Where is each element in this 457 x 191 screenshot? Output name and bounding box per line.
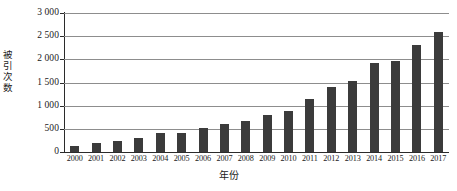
x-tick-label: 2008	[235, 154, 256, 164]
x-tick-label: 2004	[150, 154, 171, 164]
bar-slot[interactable]	[64, 13, 85, 152]
bar-chart-figure: 被引次数 05001 0001 5002 0002 5003 000 20002…	[0, 0, 457, 191]
bar-slot[interactable]	[363, 13, 384, 152]
x-tick-label: 2012	[321, 154, 342, 164]
x-tick-label: 2014	[363, 154, 384, 164]
x-tick-label: 2016	[406, 154, 427, 164]
y-tick-label: 3 000	[3, 8, 59, 18]
x-tick-label: 2009	[257, 154, 278, 164]
bar[interactable]	[284, 111, 293, 152]
bar-slot[interactable]	[192, 13, 213, 152]
bar[interactable]	[177, 133, 186, 152]
x-tick-label: 2000	[64, 154, 85, 164]
x-tick-label: 2005	[171, 154, 192, 164]
y-tick-label: 2 500	[3, 31, 59, 41]
bar[interactable]	[348, 81, 357, 152]
bar-slot[interactable]	[278, 13, 299, 152]
y-tick-mark	[60, 152, 64, 153]
y-tick-label: 2 000	[3, 55, 59, 65]
y-tick-mark	[60, 36, 64, 37]
bar[interactable]	[327, 87, 336, 152]
bar-slot[interactable]	[128, 13, 149, 152]
bar-slot[interactable]	[150, 13, 171, 152]
bar[interactable]	[241, 121, 250, 152]
bar[interactable]	[156, 133, 165, 152]
bar[interactable]	[92, 143, 101, 152]
y-tick-mark	[60, 106, 64, 107]
y-tick-mark	[60, 59, 64, 60]
bar-slot[interactable]	[342, 13, 363, 152]
bar[interactable]	[263, 115, 272, 152]
x-tick-label: 2002	[107, 154, 128, 164]
bar-slot[interactable]	[385, 13, 406, 152]
bar[interactable]	[113, 141, 122, 152]
bar-slot[interactable]	[107, 13, 128, 152]
bar-slot[interactable]	[299, 13, 320, 152]
bar-slot[interactable]	[85, 13, 106, 152]
bar[interactable]	[134, 138, 143, 152]
gridline	[64, 152, 449, 153]
x-tick-label: 2010	[278, 154, 299, 164]
bar[interactable]	[370, 63, 379, 152]
x-tick-label: 2011	[299, 154, 320, 164]
bar[interactable]	[434, 32, 443, 152]
x-tick-label: 2006	[192, 154, 213, 164]
x-tick-label: 2017	[428, 154, 449, 164]
x-tick-label: 2013	[342, 154, 363, 164]
y-axis-tick-labels: 05001 0001 5002 0002 5003 000	[0, 0, 59, 191]
y-tick-mark	[60, 129, 64, 130]
y-tick-label: 1 500	[3, 78, 59, 88]
bar[interactable]	[305, 99, 314, 153]
bar[interactable]	[391, 61, 400, 152]
y-tick-label: 500	[3, 124, 59, 134]
y-tick-label: 1 000	[3, 101, 59, 111]
bar-slot[interactable]	[406, 13, 427, 152]
x-axis-title: 年份	[0, 170, 457, 182]
x-tick-label: 2015	[385, 154, 406, 164]
bar[interactable]	[412, 45, 421, 152]
bar-slot[interactable]	[214, 13, 235, 152]
bar-slot[interactable]	[257, 13, 278, 152]
x-tick-label: 2003	[128, 154, 149, 164]
y-tick-mark	[60, 83, 64, 84]
x-tick-label: 2007	[214, 154, 235, 164]
bar-slot[interactable]	[321, 13, 342, 152]
bar-slot[interactable]	[235, 13, 256, 152]
bar-slot[interactable]	[171, 13, 192, 152]
x-axis-tick-labels: 2000200120022003200420052006200720082009…	[64, 154, 449, 167]
y-tick-label: 0	[3, 147, 59, 157]
bar[interactable]	[220, 124, 229, 152]
bar[interactable]	[199, 128, 208, 152]
y-tick-mark	[60, 13, 64, 14]
bar-slot[interactable]	[428, 13, 449, 152]
bar[interactable]	[70, 146, 79, 152]
plot-area	[64, 13, 449, 152]
x-tick-label: 2001	[85, 154, 106, 164]
